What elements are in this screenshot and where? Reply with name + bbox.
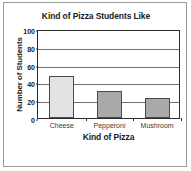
y-tick-mark-100 xyxy=(36,31,38,32)
y-tick-label-0: 0 xyxy=(31,117,35,124)
plot-area: 020406080100CheesePepperoniMushroom xyxy=(37,30,180,119)
chart-title: Kind of Pizza Students Like xyxy=(4,11,188,21)
gridline-80 xyxy=(38,49,179,50)
y-tick-label-80: 80 xyxy=(27,45,35,52)
bar-pepperoni[interactable] xyxy=(97,91,122,118)
gridline-60 xyxy=(38,67,179,68)
x-tick-label-mushroom: Mushroom xyxy=(141,122,174,130)
y-tick-label-60: 60 xyxy=(27,63,35,70)
y-tick-mark-80 xyxy=(36,48,38,49)
y-tick-label-40: 40 xyxy=(27,81,35,88)
chart-figure-frame: Kind of Pizza Students Like Number of St… xyxy=(3,2,187,167)
y-tick-label-20: 20 xyxy=(27,99,35,106)
y-tick-mark-0 xyxy=(36,120,38,121)
x-tick-label-cheese: Cheese xyxy=(50,122,74,130)
x-tick-label-pepperoni: Pepperoni xyxy=(94,122,126,130)
y-tick-mark-40 xyxy=(36,84,38,85)
y-tick-label-100: 100 xyxy=(23,28,35,35)
x-tick-mark-3 xyxy=(181,118,182,121)
y-tick-mark-20 xyxy=(36,102,38,103)
bar-mushroom[interactable] xyxy=(145,98,170,118)
bar-cheese[interactable] xyxy=(49,76,74,118)
y-axis-title: Number of Students xyxy=(14,30,26,119)
x-axis-title: Kind of Pizza xyxy=(37,132,180,142)
y-tick-mark-60 xyxy=(36,66,38,67)
x-tick-mark-1 xyxy=(86,118,87,121)
x-tick-mark-2 xyxy=(133,118,134,121)
